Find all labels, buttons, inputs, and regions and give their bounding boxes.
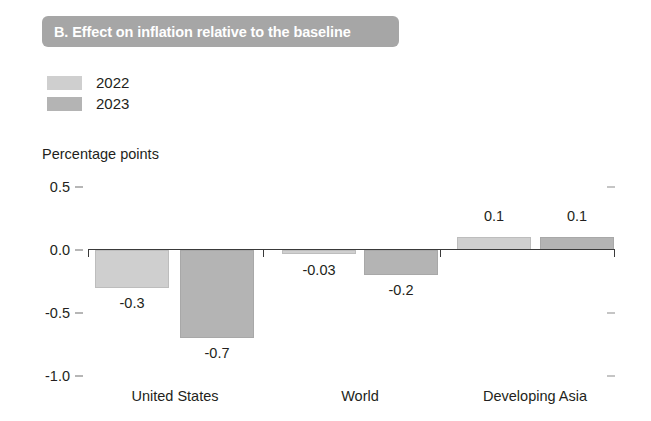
legend-swatch-2022 [47,76,82,90]
y-tick-label--1.0: -1.0 [14,368,70,384]
panel-title-bar: B. Effect on inflation relative to the b… [42,16,399,47]
chart-legend: 2022 2023 [47,72,129,114]
y-tick-dash--1.0 [75,376,83,377]
category-separator-tick-2 [440,250,441,257]
y-tick-label--0.5: -0.5 [14,305,70,321]
y-axis-title: Percentage points [42,146,159,162]
bar-united-states-2023 [180,250,254,338]
axis-right-end-tick [614,250,615,257]
y-tick-dash--0.5 [75,313,83,314]
legend-label-2023: 2023 [96,95,129,112]
bar-value-developing-asia-2022: 0.1 [484,208,504,224]
bar-value-world-2023: -0.2 [389,282,414,298]
bar-value-united-states-2022: -0.3 [120,295,145,311]
y-tick-label-0.0: 0.0 [14,242,70,258]
bar-value-united-states-2023: -0.7 [205,345,230,361]
y-tick-dash-right-0.5 [607,187,615,188]
axis-left-end-tick [88,250,89,257]
y-tick-dash-right--1.0 [607,376,615,377]
chart-plot-area: 0.5 0.0 -0.5 -1.0 -0.3 -0.7 -0.03 -0.2 0… [0,170,651,385]
legend-swatch-2023 [47,97,82,111]
legend-item-2022: 2022 [47,72,129,93]
panel-title-text: B. Effect on inflation relative to the b… [54,24,351,40]
bar-united-states-2022 [95,250,169,288]
bar-value-developing-asia-2023: 0.1 [567,208,587,224]
category-label-united-states: United States [131,388,218,404]
y-tick-dash-right--0.5 [607,313,615,314]
bar-world-2023 [364,250,438,275]
bar-value-world-2022: -0.03 [302,262,335,278]
legend-label-2022: 2022 [96,74,129,91]
bar-world-2022 [282,250,356,254]
zero-axis-line [88,249,615,250]
y-tick-label-0.5: 0.5 [14,179,70,195]
y-tick-dash-0.0 [75,250,83,251]
category-separator-tick-1 [263,250,264,257]
y-tick-dash-0.5 [75,187,83,188]
category-label-developing-asia: Developing Asia [483,388,587,404]
legend-item-2023: 2023 [47,93,129,114]
category-label-world: World [341,388,379,404]
